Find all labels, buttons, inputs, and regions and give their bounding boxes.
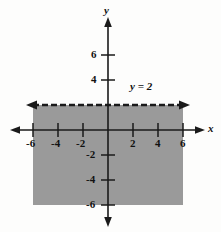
x-axis-label: x	[208, 122, 214, 134]
y-axis-arrow-down-icon	[104, 217, 112, 227]
y-axis-arrow-up-icon	[104, 17, 112, 27]
x-axis-arrow-right-icon	[195, 126, 205, 134]
x-tick-label-2: 2	[130, 137, 136, 149]
y-tick-label--6: -6	[86, 198, 95, 210]
graph-canvas	[0, 0, 221, 232]
y-tick-label-4: 4	[91, 73, 97, 85]
x-tick-label-6: 6	[180, 137, 186, 149]
x-tick-label-4: 4	[155, 137, 161, 149]
y-axis-label: y	[104, 4, 109, 16]
inequality-graph-figure: x y y = 2 -6 -4 -2 2 4 6 6 4 -2 -4 -6	[0, 0, 221, 232]
boundary-line-label: y = 2	[130, 80, 152, 92]
x-axis-arrow-left-icon	[10, 126, 20, 134]
x-tick-label--2: -2	[76, 137, 85, 149]
boundary-arrow-right-icon	[179, 100, 190, 109]
y-tick-label--4: -4	[86, 173, 95, 185]
x-tick-label--4: -4	[51, 137, 60, 149]
y-tick-label-6: 6	[91, 48, 97, 60]
x-tick-label--6: -6	[26, 137, 35, 149]
boundary-arrow-left-icon	[26, 100, 37, 109]
y-tick-label--2: -2	[86, 148, 95, 160]
